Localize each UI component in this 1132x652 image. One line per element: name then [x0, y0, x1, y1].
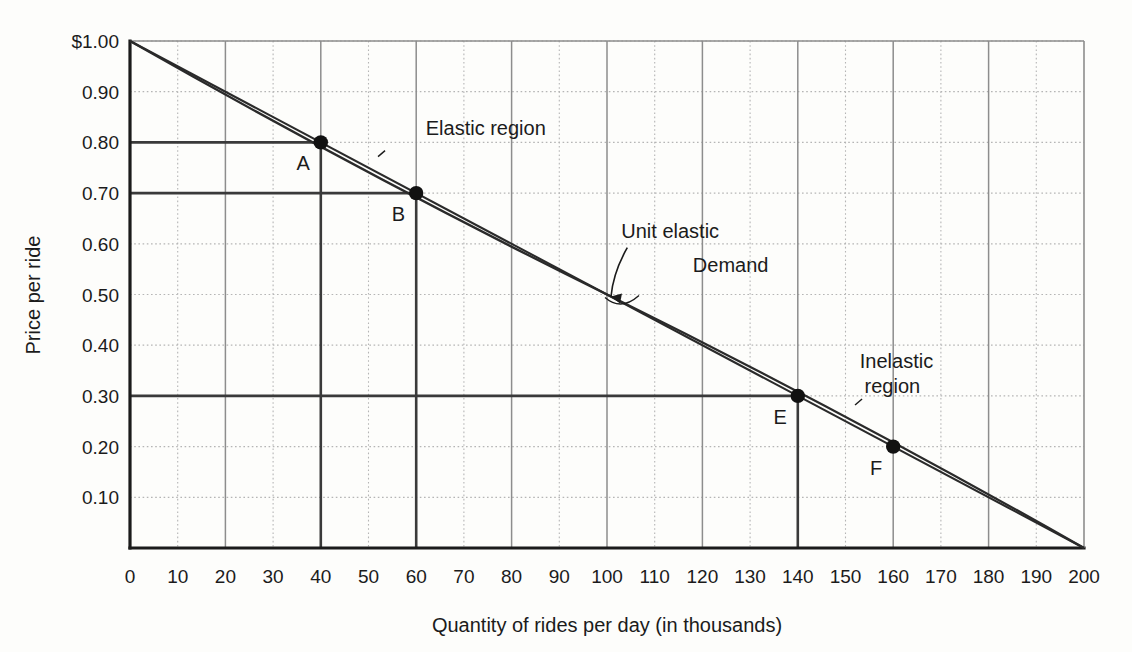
- y-tick-label-0.70: 0.70: [82, 183, 119, 204]
- y-tick-label-0.90: 0.90: [82, 82, 119, 103]
- annotation-elastic-region: Elastic region: [426, 117, 546, 139]
- x-tick-label-150: 150: [830, 566, 862, 587]
- x-tick-label-80: 80: [501, 566, 522, 587]
- point-label-B: B: [392, 203, 405, 225]
- chart-figure: ABEF Elastic regionUnit elasticDemandIne…: [0, 0, 1132, 652]
- x-tick-label-50: 50: [358, 566, 379, 587]
- x-tick-label-60: 60: [406, 566, 427, 587]
- x-tick-label-160: 160: [877, 566, 909, 587]
- chart-background: [0, 0, 1132, 652]
- y-tick-label-0.20: 0.20: [82, 437, 119, 458]
- y-tick-label-1.00: $1.00: [71, 31, 119, 52]
- y-tick-label-0.40: 0.40: [82, 335, 119, 356]
- annotation-inelastic-region-line2: region: [865, 375, 921, 397]
- y-tick-label-0.80: 0.80: [82, 132, 119, 153]
- demand-elasticity-chart: ABEF Elastic regionUnit elasticDemandIne…: [0, 0, 1132, 652]
- point-label-A: A: [296, 152, 310, 174]
- y-tick-label-0.60: 0.60: [82, 234, 119, 255]
- data-point-F: [886, 439, 900, 453]
- y-tick-label-0.30: 0.30: [82, 386, 119, 407]
- annotation-unit-elastic: Unit elastic: [621, 220, 719, 242]
- data-point-A: [314, 135, 328, 149]
- x-tick-label-180: 180: [973, 566, 1005, 587]
- data-point-E: [791, 389, 805, 403]
- x-tick-label-10: 10: [167, 566, 188, 587]
- x-tick-label-30: 30: [263, 566, 284, 587]
- y-axis-title: Price per ride: [22, 236, 44, 355]
- x-tick-label-190: 190: [1020, 566, 1052, 587]
- x-tick-label-70: 70: [453, 566, 474, 587]
- x-tick-label-40: 40: [310, 566, 331, 587]
- x-axis-tick-labels: 0102030405060708090100110120130140150160…: [125, 566, 1100, 587]
- y-tick-label-0.50: 0.50: [82, 285, 119, 306]
- x-tick-label-100: 100: [591, 566, 623, 587]
- x-tick-label-20: 20: [215, 566, 236, 587]
- x-tick-label-140: 140: [782, 566, 814, 587]
- x-tick-label-0: 0: [125, 566, 136, 587]
- x-tick-label-90: 90: [549, 566, 570, 587]
- data-point-B: [409, 186, 423, 200]
- x-tick-label-170: 170: [925, 566, 957, 587]
- annotation-inelastic-region-line1: Inelastic: [860, 350, 933, 372]
- x-tick-label-110: 110: [640, 566, 670, 587]
- annotation-demand: Demand: [693, 254, 769, 276]
- y-tick-label-0.10: 0.10: [82, 487, 119, 508]
- x-tick-label-120: 120: [687, 566, 719, 587]
- x-tick-label-130: 130: [734, 566, 766, 587]
- x-tick-label-200: 200: [1068, 566, 1100, 587]
- point-label-E: E: [773, 406, 786, 428]
- point-label-F: F: [870, 457, 882, 479]
- x-axis-title: Quantity of rides per day (in thousands): [432, 614, 782, 636]
